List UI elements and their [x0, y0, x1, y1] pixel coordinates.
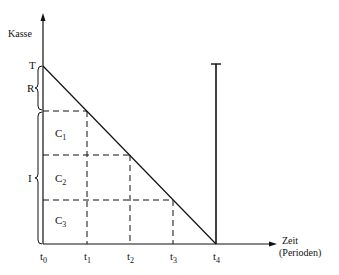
label-i: I — [28, 173, 32, 184]
tick-t4: t4 — [213, 251, 220, 265]
cash-diagram-canvas — [0, 0, 339, 275]
x-axis-label: Zeit — [282, 236, 298, 246]
tick-t3: t3 — [170, 251, 177, 265]
label-t-top: T — [29, 60, 36, 71]
label-r: R — [27, 83, 34, 94]
x-axis-label-unit: (Perioden) — [279, 248, 321, 258]
tick-t2: t2 — [127, 251, 134, 265]
area-c2: C2 — [55, 173, 66, 187]
area-c3: C3 — [55, 215, 66, 229]
brace-i — [35, 112, 42, 244]
tick-t0: t0 — [40, 251, 47, 265]
brace-r — [35, 66, 42, 110]
y-axis-label: Kasse — [8, 29, 32, 39]
tick-t1: t1 — [84, 251, 91, 265]
x-axis-arrow-icon — [269, 242, 277, 247]
y-axis-arrow-icon — [41, 13, 46, 21]
area-c1: C1 — [55, 128, 66, 142]
